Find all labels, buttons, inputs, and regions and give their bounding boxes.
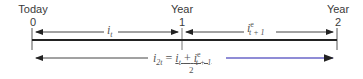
- formula: i2t = it + iet + 1: [150, 50, 214, 67]
- timeline-diagram: [0, 0, 363, 79]
- seg1-label: it: [104, 23, 116, 39]
- seg2-label: iet + 1: [244, 20, 268, 37]
- formula-denominator: 2: [189, 65, 194, 75]
